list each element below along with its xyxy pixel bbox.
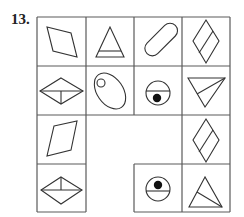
cell-r2c2-ellipse-icon: [88, 67, 132, 115]
cell-r2c4-inverted-triangle-icon: [188, 78, 225, 107]
cell-r2c3-circle-dot-below-icon: [146, 81, 170, 105]
cell-r1c1-parallelogram-icon: [47, 27, 77, 57]
cell-r1c2-triangle-icon: [96, 27, 124, 57]
cell-r1c3-capsule-icon: [142, 20, 181, 59]
cell-r3c1-parallelogram-icon: [47, 121, 77, 156]
cell-r4c3-circle-dot-above-icon: [146, 177, 170, 201]
cell-r4c1-rhombus-split-icon: [41, 177, 82, 204]
cell-r2c1-rhombus-split-icon: [40, 78, 83, 104]
cell-r4c4-triangle-icon: [189, 177, 222, 207]
grid-lines: [37, 17, 230, 212]
cell-r1c4-rhombus-icon: [193, 20, 219, 63]
puzzle-grid: [0, 0, 244, 217]
cell-r3c4-rhombus-icon: [193, 119, 219, 162]
